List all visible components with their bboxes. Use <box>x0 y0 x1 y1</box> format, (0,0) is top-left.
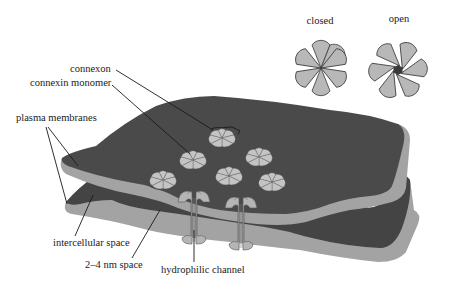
connexon-icon <box>212 166 246 186</box>
label-hydrophilic-channel: hydrophilic channel <box>161 264 245 275</box>
inset-closed: closed <box>293 15 350 96</box>
label-connexin-monomer: connexin monomer <box>30 77 112 88</box>
label-connexon: connexon <box>70 63 112 74</box>
label-intercellular-space: intercellular space <box>53 237 130 248</box>
label-open: open <box>389 13 410 24</box>
label-closed: closed <box>307 15 335 26</box>
label-plasma-membranes: plasma membranes <box>16 112 97 123</box>
connexon-closed-icon <box>293 40 350 95</box>
connexon-icon <box>176 150 210 170</box>
gap-junction-diagram: closed open <box>0 0 451 289</box>
connexon-icon <box>205 128 239 148</box>
connexon-icon <box>146 170 180 190</box>
inset-open: open <box>359 13 437 107</box>
connexon-icon <box>255 172 289 192</box>
connexon-icon <box>242 147 276 167</box>
label-nm-space: 2–4 nm space <box>85 259 143 270</box>
connexon-open-icon <box>359 33 437 108</box>
